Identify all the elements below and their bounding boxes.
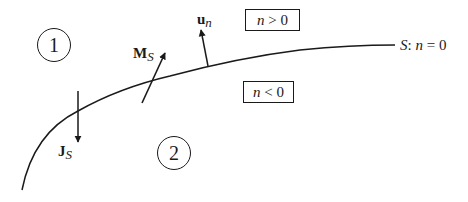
n-negative-rest: < 0 [261,84,284,101]
unit-normal-label: un [197,11,212,27]
region-1-label: 1 [49,34,59,57]
n-negative-box: n < 0 [243,81,294,103]
magnetic-current-symbol: M [133,45,147,61]
surface-name: S [400,37,408,53]
electric-current-subscript: S [66,147,73,162]
region-2-marker: 2 [157,136,191,170]
magnetic-current-subscript: S [147,49,154,64]
electric-current-symbol: J [58,143,66,159]
n-positive-rest: > 0 [265,12,288,29]
interface-diagram [0,0,468,202]
n-negative-var: n [253,84,261,101]
region-2-label: 2 [169,142,179,165]
unit-normal-arrow [201,30,208,66]
region-1-marker: 1 [37,28,71,62]
n-positive-var: n [257,12,265,29]
surface-label: S: n = 0 [400,38,446,53]
unit-normal-subscript: n [205,15,212,30]
surface-rest: = 0 [423,37,446,53]
n-positive-box: n > 0 [245,9,300,31]
surface-sep: : [408,37,412,53]
surface-var: n [415,37,423,53]
magnetic-current-label: MS [133,45,154,61]
electric-current-label: JS [58,143,72,159]
